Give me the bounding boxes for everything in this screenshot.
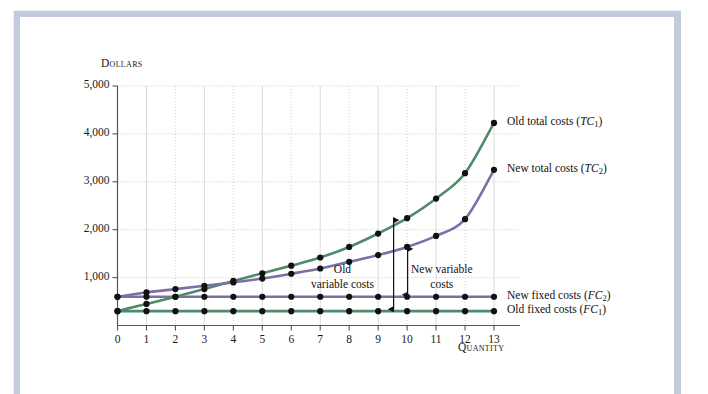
y-tick-label: 3,000 — [64, 174, 110, 186]
x-tick-label: 5 — [252, 333, 272, 345]
series-label-symbol: FC — [588, 289, 603, 301]
series-label-2: New total costs (TC2) — [507, 162, 607, 174]
series-label-subscript: 1 — [598, 307, 602, 317]
x-tick-label: 0 — [108, 333, 128, 345]
annotation-line-1: New variable — [411, 262, 473, 277]
series-label-paren: ) — [602, 303, 606, 315]
series-label-text: Old fixed costs ( — [507, 303, 583, 315]
y-axis-title: Dollars — [101, 57, 143, 69]
series-label-paren: ) — [598, 115, 602, 127]
y-tick-label: 1,000 — [64, 270, 110, 282]
x-tick-label: 4 — [223, 333, 243, 345]
x-tick-label: 2 — [165, 333, 185, 345]
x-tick-label: 10 — [397, 333, 417, 345]
series-label-text: New total costs ( — [507, 162, 585, 174]
x-tick-label: 13 — [484, 333, 504, 345]
annotation-line-1: Old — [311, 262, 374, 277]
annotation-line-2: costs — [411, 277, 473, 292]
x-tick-label: 9 — [368, 333, 388, 345]
series-label-subscript: 1 — [594, 119, 598, 129]
y-tick-label: 5,000 — [64, 78, 110, 90]
x-tick-label: 7 — [310, 333, 330, 345]
series-label-symbol: TC — [580, 115, 594, 127]
x-tick-label: 6 — [281, 333, 301, 345]
annotation-old-variable-costs: Oldvariable costs — [311, 262, 374, 291]
series-label-subscript: 2 — [603, 293, 607, 303]
y-tick-label: 4,000 — [64, 126, 110, 138]
series-label-paren: ) — [607, 289, 611, 301]
x-tick-label: 8 — [339, 333, 359, 345]
series-label-symbol: TC — [585, 162, 599, 174]
series-label-4: Old fixed costs (FC1) — [507, 303, 606, 315]
x-tick-label: 3 — [194, 333, 214, 345]
series-label-text: New fixed costs ( — [507, 289, 588, 301]
series-label-text: Old total costs ( — [507, 115, 580, 127]
x-tick-label: 11 — [426, 333, 446, 345]
annotation-line-2: variable costs — [311, 277, 374, 292]
series-label-paren: ) — [603, 162, 607, 174]
x-tick-label: 12 — [455, 333, 475, 345]
series-label-1: Old total costs (TC1) — [507, 115, 602, 127]
series-label-subscript: 2 — [599, 166, 603, 176]
annotation-new-variable-costs: New variablecosts — [411, 262, 473, 291]
series-label-symbol: FC — [583, 303, 598, 315]
x-tick-label: 1 — [136, 333, 156, 345]
y-tick-label: 2,000 — [64, 222, 110, 234]
series-label-3: New fixed costs (FC2) — [507, 289, 611, 301]
